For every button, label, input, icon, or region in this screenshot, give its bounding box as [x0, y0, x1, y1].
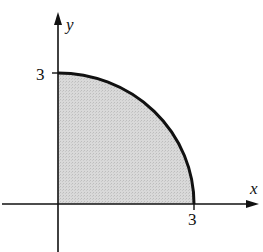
y-axis-arrow-icon [54, 12, 62, 25]
x-axis-arrow-icon [246, 200, 259, 208]
y-tick-label: 3 [36, 65, 45, 84]
x-tick-label: 3 [188, 210, 197, 229]
x-axis-label: x [249, 179, 258, 198]
shaded-region [58, 73, 194, 204]
quarter-disk-diagram: y x 3 3 [0, 0, 263, 252]
y-axis-label: y [64, 15, 74, 34]
